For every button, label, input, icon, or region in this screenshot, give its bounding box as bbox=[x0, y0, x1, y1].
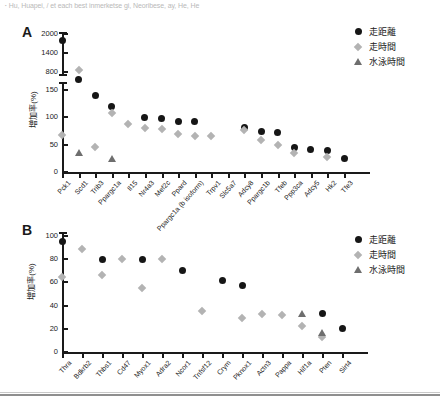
panel-b-point-diamond bbox=[118, 255, 126, 263]
panel-a-ytick-label: 2000 bbox=[18, 29, 58, 38]
panel-b-xtick-label: Pknox1 bbox=[231, 359, 252, 381]
panel-b-point-diamond bbox=[78, 245, 86, 253]
legend-item-label: 走時間 bbox=[369, 40, 396, 53]
panel-b-point-diamond bbox=[238, 314, 246, 322]
panel-b-point-circle bbox=[239, 282, 246, 289]
diamond-marker-icon bbox=[352, 41, 364, 53]
figure-container: ･ Hu, Huapei, / et each best inmerketse … bbox=[0, 0, 440, 396]
panel-b-xtick bbox=[82, 354, 84, 358]
panel-b-point-diamond bbox=[98, 271, 106, 279]
panel-b-xtick bbox=[242, 354, 244, 358]
panel-a-xtick bbox=[95, 174, 97, 178]
panel-a-point-circle bbox=[158, 115, 165, 122]
panel-a-point-diamond bbox=[124, 120, 132, 128]
panel-a-xtick bbox=[211, 174, 213, 178]
panel-a-ytick bbox=[64, 144, 68, 146]
panel-a-xtick-label: Mef2c bbox=[154, 179, 172, 198]
panel-a-point-triangle bbox=[75, 149, 83, 156]
panel-b-legend: 走距離走時間水泳時間 bbox=[352, 232, 405, 277]
panel-b-ytick bbox=[64, 281, 68, 283]
panel-b-xtick-label: Pten bbox=[317, 359, 332, 374]
top-caption-fragment: ･ Hu, Huapei, / et each best inmerketse … bbox=[4, 0, 436, 11]
panel-a-point-diamond bbox=[190, 132, 198, 140]
panel-b-xtick bbox=[222, 354, 224, 358]
panel-b-xtick-label: Actn3 bbox=[255, 359, 272, 377]
panel-b-point-circle bbox=[339, 325, 346, 332]
panel-b-point-diamond bbox=[198, 307, 206, 315]
legend-item-label: 走距離 bbox=[369, 233, 396, 246]
panel-a-point-circle bbox=[92, 92, 99, 99]
panel-a-ytick-label: 50 bbox=[18, 140, 58, 149]
panel-b-xtick bbox=[162, 354, 164, 358]
panel-b-point-circle bbox=[319, 310, 326, 317]
panel-b-point-triangle bbox=[318, 329, 326, 336]
panel-a-ytick bbox=[64, 71, 68, 73]
panel-b-point-diamond bbox=[158, 255, 166, 263]
panel-b-yaxis bbox=[62, 232, 64, 354]
panel-a-point-circle bbox=[59, 37, 66, 44]
panel-a-axis-cap bbox=[59, 82, 67, 84]
panel-a-point-diamond bbox=[323, 152, 331, 160]
panel-a-xtick-label: Hk2 bbox=[324, 179, 338, 193]
panel-b-axis-cap bbox=[59, 232, 67, 234]
panel-b-xtick-label: Cd47 bbox=[116, 359, 132, 376]
legend-item-diamond: 走時間 bbox=[352, 247, 405, 262]
panel-a-point-diamond bbox=[108, 109, 116, 117]
panel-b-xtick bbox=[262, 354, 264, 358]
panel-b-xtick bbox=[62, 354, 64, 358]
legend-item-diamond: 走時間 bbox=[352, 39, 405, 54]
data-point-triangle bbox=[354, 58, 362, 65]
panel-b-xtick-label: Thra bbox=[57, 359, 72, 374]
panel-b-xtick-label: Sirt4 bbox=[337, 359, 352, 374]
panel-a-xtick-label: Nr4a3 bbox=[137, 179, 155, 198]
panel-a-ytick bbox=[64, 52, 68, 54]
legend-item-circle: 走距離 bbox=[352, 24, 405, 39]
panel-a-point-circle bbox=[307, 146, 314, 153]
panel-a-point-diamond bbox=[257, 136, 265, 144]
panel-b-point-circle bbox=[139, 256, 146, 263]
panel-a-ytick bbox=[64, 116, 68, 118]
panel-a-legend: 走距離走時間水泳時間 bbox=[352, 24, 405, 69]
panel-a-xtick bbox=[195, 174, 197, 178]
panel-a-xtick bbox=[294, 174, 296, 178]
panel-b-xtick-label: Adra2 bbox=[154, 359, 172, 378]
panel-a-point-diamond bbox=[58, 131, 66, 139]
panel-a-ytick-label: 0 bbox=[18, 167, 58, 176]
panel-b-xtick bbox=[322, 354, 324, 358]
panel-a-point-circle bbox=[191, 118, 198, 125]
panel-a-point-diamond bbox=[91, 143, 99, 151]
panel-a-xtick bbox=[178, 174, 180, 178]
legend-item-label: 水泳時間 bbox=[369, 263, 405, 276]
panel-b-ytick bbox=[64, 305, 68, 307]
panel-a-point-circle bbox=[141, 114, 148, 121]
panel-a-yaxis-title: 増加率(%) bbox=[27, 72, 38, 148]
panel-a-point-diamond bbox=[174, 129, 182, 137]
panel-b-point-diamond bbox=[258, 309, 266, 317]
panel-b-xtick-label: Pappa bbox=[273, 359, 292, 379]
panel-a-point-triangle bbox=[108, 155, 116, 162]
panel-a-xtick bbox=[62, 174, 64, 178]
panel-a-point-circle bbox=[274, 129, 281, 136]
panel-b-xtick bbox=[142, 354, 144, 358]
panel-b-point-triangle bbox=[298, 310, 306, 317]
panel-a-xtick bbox=[128, 174, 130, 178]
panel-a-xtick-label: Scd1 bbox=[73, 179, 89, 196]
panel-b-xtick-label: Ncor1 bbox=[174, 359, 192, 378]
panel-b-point-circle bbox=[99, 256, 106, 263]
data-point-circle bbox=[355, 236, 362, 243]
panel-b-point-circle bbox=[219, 277, 226, 284]
panel-a: A 80014002000050100150増加率(%)Pck1Scd1Trib… bbox=[0, 14, 440, 214]
panel-a-ytick-label: 800 bbox=[18, 67, 58, 76]
panel-b-xtick bbox=[102, 354, 104, 358]
footer-divider-thin bbox=[0, 392, 440, 393]
diamond-marker-icon bbox=[352, 249, 364, 261]
panel-a-point-diamond bbox=[157, 125, 165, 133]
panel-b-ytick bbox=[64, 351, 68, 353]
panel-a-point-diamond bbox=[141, 124, 149, 132]
panel-b-xtick bbox=[282, 354, 284, 358]
panel-a-xtick-label: Adcy5 bbox=[303, 179, 321, 198]
data-point-triangle bbox=[354, 266, 362, 273]
panel-b-ytick-label: 0 bbox=[18, 347, 58, 356]
panel-a-axis-cap bbox=[59, 74, 67, 76]
panel-b-xtick bbox=[202, 354, 204, 358]
